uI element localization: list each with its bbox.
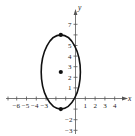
center-point	[59, 70, 63, 74]
top-vertex-point	[59, 33, 63, 37]
x-tick-label: 2	[93, 102, 97, 110]
y-tick-label: 1	[68, 84, 72, 92]
y-tick-label: −2	[65, 116, 73, 124]
y-axis-label: y	[77, 3, 82, 12]
y-tick-label: 4	[68, 53, 72, 61]
y-tick-label: 2	[68, 74, 72, 82]
x-tick-label: 4	[113, 102, 117, 110]
x-tick-label: 1	[84, 102, 88, 110]
y-axis-arrow-icon	[74, 9, 78, 15]
x-tick-label: −4	[31, 102, 39, 110]
x-tick-label: −5	[22, 102, 30, 110]
x-tick-label: −3	[41, 102, 49, 110]
y-tick-label: 5	[68, 42, 72, 50]
x-tick-label: −6	[13, 102, 21, 110]
y-tick-label: 7	[68, 21, 72, 29]
ellipse-graph: x y −6 −5 −4 −3 1 2 3 4 7 5 4 3 2 1 −2 −…	[0, 0, 135, 136]
y-axis	[74, 9, 78, 134]
x-axis-label: x	[127, 94, 132, 103]
bottom-vertex-point	[59, 107, 63, 111]
y-tick-label: 3	[68, 63, 72, 71]
y-tick-label: −3	[65, 127, 73, 135]
x-axis	[6, 97, 128, 101]
x-tick-label: 3	[103, 102, 107, 110]
